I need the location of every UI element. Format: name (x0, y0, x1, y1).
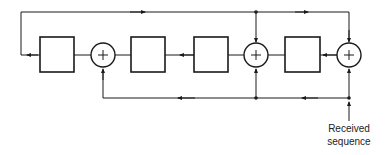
bottom-feedback-line (103, 70, 349, 98)
junction-dot (254, 96, 258, 100)
register-stage-4 (285, 37, 320, 72)
register-stage-1 (40, 37, 74, 72)
register-stage-2 (131, 37, 165, 72)
input-label-received: Received (314, 123, 384, 135)
register-stage-3 (194, 37, 228, 72)
junction-dot (254, 10, 258, 14)
junction-dot (347, 96, 351, 100)
input-label-sequence: sequence (314, 136, 384, 148)
